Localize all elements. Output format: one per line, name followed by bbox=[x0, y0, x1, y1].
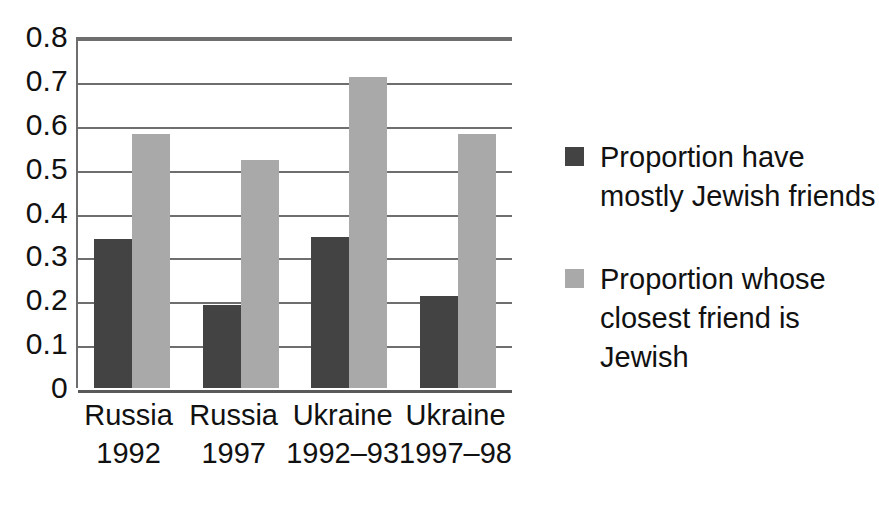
bar-0-1[interactable] bbox=[203, 305, 241, 388]
legend-item[interactable]: Proportion whoseclosest friend isJewish bbox=[565, 260, 879, 377]
x-category-label-line: 1992–93 bbox=[286, 434, 399, 472]
bar-group bbox=[295, 39, 404, 388]
bar-groups bbox=[78, 39, 512, 388]
y-tick-label: 0.7 bbox=[2, 66, 68, 96]
legend-label-line: mostly Jewish friends bbox=[600, 177, 876, 216]
legend-item[interactable]: Proportion havemostly Jewish friends bbox=[565, 138, 879, 216]
legend-swatch-icon bbox=[565, 147, 584, 166]
legend-label-line: Proportion have bbox=[600, 138, 876, 177]
y-tick-label: 0.1 bbox=[2, 329, 68, 359]
x-category-label-line: 1997 bbox=[181, 434, 286, 472]
bar-0-2[interactable] bbox=[311, 237, 349, 388]
x-category-label: Russia1992 bbox=[76, 396, 181, 472]
legend-label: Proportion whoseclosest friend isJewish bbox=[600, 260, 826, 377]
gridline-0 bbox=[78, 390, 512, 393]
x-category-label-line: Russia bbox=[181, 396, 286, 434]
y-tick-label: 0.2 bbox=[2, 285, 68, 315]
bar-1-1[interactable] bbox=[241, 160, 279, 388]
x-category-label: Russia1997 bbox=[181, 396, 286, 472]
legend-label-line: Proportion whose bbox=[600, 260, 826, 299]
bar-group bbox=[187, 39, 296, 388]
y-axis-tick-labels: 0.80.70.60.50.40.30.20.10 bbox=[0, 37, 68, 388]
x-category-label-line: 1992 bbox=[76, 434, 181, 472]
bar-1-2[interactable] bbox=[349, 77, 387, 389]
y-tick-label: 0.6 bbox=[2, 110, 68, 140]
x-category-label-line: Ukraine bbox=[399, 396, 512, 434]
chart-plot-area bbox=[76, 37, 512, 388]
y-tick-label: 0.4 bbox=[2, 198, 68, 228]
bar-0-3[interactable] bbox=[420, 296, 458, 388]
bar-1-3[interactable] bbox=[458, 134, 496, 388]
x-axis-category-labels: Russia1992Russia1997Ukraine1992–93Ukrain… bbox=[76, 396, 512, 472]
legend-label-line: closest friend is bbox=[600, 299, 826, 338]
y-tick-label: 0 bbox=[2, 373, 68, 403]
bar-0-0[interactable] bbox=[94, 239, 132, 388]
bar-1-0[interactable] bbox=[132, 134, 170, 388]
legend-swatch-icon bbox=[565, 269, 584, 288]
y-tick-label: 0.3 bbox=[2, 241, 68, 271]
x-category-label: Ukraine1992–93 bbox=[286, 396, 399, 472]
y-tick-label: 0.5 bbox=[2, 154, 68, 184]
legend-label-line: Jewish bbox=[600, 338, 826, 377]
chart-page: 0.80.70.60.50.40.30.20.10 Russia1992Russ… bbox=[0, 0, 879, 512]
bar-group bbox=[78, 39, 187, 388]
x-category-label: Ukraine1997–98 bbox=[399, 396, 512, 472]
x-category-label-line: 1997–98 bbox=[399, 434, 512, 472]
bar-group bbox=[404, 39, 513, 388]
legend-label: Proportion havemostly Jewish friends bbox=[600, 138, 876, 216]
x-category-label-line: Ukraine bbox=[286, 396, 399, 434]
y-tick-label: 0.8 bbox=[2, 22, 68, 52]
x-category-label-line: Russia bbox=[76, 396, 181, 434]
chart-legend: Proportion havemostly Jewish friendsProp… bbox=[565, 138, 879, 421]
